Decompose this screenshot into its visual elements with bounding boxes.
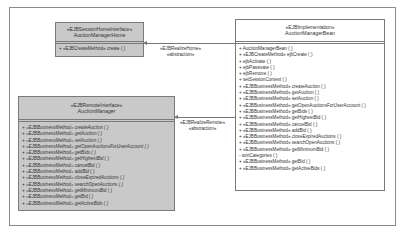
realize-home-connector[interactable] xyxy=(144,43,235,44)
operations-list: + «EJBBusinessMethod» createAuction ( ) … xyxy=(19,122,174,209)
realize-remote-connector[interactable] xyxy=(175,117,235,118)
operations-list: + AuctionManagerBean ( ) + «EJBCreateMet… xyxy=(236,44,384,174)
class-header: «EJBRemoteInterface» AuctionManager xyxy=(19,97,174,119)
relation-kind: «abstraction» xyxy=(180,126,225,132)
arrowhead-icon xyxy=(174,115,178,119)
class-name: AuctionManagerHome xyxy=(58,32,141,38)
arrowhead-icon xyxy=(143,41,147,45)
class-auction-manager[interactable]: «EJBRemoteInterface» AuctionManager + «E… xyxy=(18,96,175,211)
attributes-divider xyxy=(236,41,384,42)
attributes-divider xyxy=(19,119,174,120)
operation[interactable]: + «EJBBusinessMethod» getActiveBids ( ) xyxy=(22,201,171,207)
operation[interactable]: + «EJBBusinessMethod» getActiveBids ( ) xyxy=(239,166,381,172)
class-name: AuctionManagerBean xyxy=(238,30,382,36)
operations-list: + «EJBCreateMethod» create ( ) xyxy=(56,44,143,54)
class-name: AuctionManager xyxy=(21,108,172,114)
realize-remote-label: «EJBRealizeRemote» «abstraction» xyxy=(180,120,225,131)
class-header: «EJBSessionHomeInterface» AuctionManager… xyxy=(56,23,143,41)
realize-home-label: «EJBRealizeHome» «abstraction» xyxy=(160,46,201,57)
attributes-divider xyxy=(56,41,143,42)
class-auction-manager-bean[interactable]: «EJBImplementation» AuctionManagerBean +… xyxy=(235,19,385,191)
class-header: «EJBImplementation» AuctionManagerBean xyxy=(236,20,384,41)
operation[interactable]: + «EJBCreateMethod» create ( ) xyxy=(59,46,140,52)
relation-kind: «abstraction» xyxy=(160,52,201,58)
class-auction-manager-home[interactable]: «EJBSessionHomeInterface» AuctionManager… xyxy=(55,22,144,57)
relation-stereotype: «EJBRealizeHome» xyxy=(160,46,201,52)
relation-stereotype: «EJBRealizeRemote» xyxy=(180,120,225,126)
